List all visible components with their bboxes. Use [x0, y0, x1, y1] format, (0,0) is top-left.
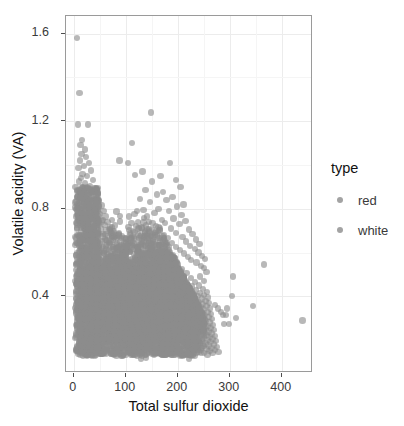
x-tick-label: 200	[152, 381, 202, 394]
data-point	[229, 293, 235, 299]
x-tick-label: 300	[204, 381, 254, 394]
data-point	[152, 252, 158, 258]
data-point	[143, 346, 149, 352]
data-point	[138, 224, 144, 230]
data-point	[138, 250, 144, 256]
data-point	[185, 312, 191, 318]
data-point	[128, 243, 134, 249]
data-point	[73, 288, 79, 294]
data-point	[136, 270, 142, 276]
data-point	[95, 344, 101, 350]
data-point	[224, 305, 230, 311]
gridline-horizontal-minor	[66, 165, 311, 166]
data-point	[299, 317, 305, 323]
data-point	[89, 295, 95, 301]
y-axis-title: Volatile acidity (VA)	[10, 15, 30, 372]
x-tick-mark	[73, 373, 74, 377]
data-point	[147, 265, 153, 271]
legend-dot-icon	[337, 227, 343, 233]
gridline-horizontal	[66, 34, 311, 35]
gridline-vertical-minor	[256, 16, 257, 371]
data-point	[171, 328, 177, 334]
legend-item-red[interactable]: red	[331, 188, 403, 212]
x-tick-label: 0	[48, 381, 98, 394]
data-point	[116, 157, 122, 163]
data-point	[151, 210, 157, 216]
data-point	[144, 213, 150, 219]
data-point	[176, 221, 182, 227]
legend-key	[331, 191, 349, 209]
x-tick-label: 400	[256, 381, 306, 394]
legend-item-white[interactable]: white	[331, 218, 403, 242]
data-point	[261, 261, 267, 267]
data-point	[163, 255, 169, 261]
data-point	[131, 347, 137, 353]
data-point	[84, 173, 90, 179]
legend-items: redwhite	[331, 188, 403, 242]
data-point	[180, 201, 186, 207]
data-point	[233, 315, 239, 321]
legend: type redwhite	[331, 160, 403, 248]
data-point	[167, 160, 173, 166]
x-axis-title: Total sulfur dioxide	[0, 398, 377, 414]
data-point	[226, 321, 232, 327]
x-tick-label: 100	[100, 381, 150, 394]
data-point	[129, 140, 135, 146]
data-point	[129, 234, 135, 240]
data-point	[165, 331, 171, 337]
data-point	[103, 346, 109, 352]
data-point	[82, 316, 88, 322]
data-point	[94, 337, 100, 343]
y-tick-mark	[61, 208, 65, 209]
legend-key	[331, 221, 349, 239]
data-point	[106, 334, 112, 340]
data-point	[185, 339, 191, 345]
data-point	[152, 345, 158, 351]
data-point	[94, 320, 100, 326]
data-point	[159, 248, 165, 254]
data-point	[148, 109, 154, 115]
data-point	[76, 90, 82, 96]
data-point	[163, 282, 169, 288]
data-point	[159, 351, 165, 357]
x-tick-mark	[177, 373, 178, 377]
data-point	[142, 187, 148, 193]
data-point	[170, 215, 176, 221]
data-point	[113, 208, 119, 214]
data-point	[132, 172, 138, 178]
data-point	[85, 121, 91, 127]
data-point	[169, 194, 175, 200]
data-point	[94, 295, 100, 301]
data-point	[77, 236, 83, 242]
data-point	[75, 121, 81, 127]
data-point	[115, 345, 121, 351]
data-point	[190, 334, 196, 340]
data-point	[149, 178, 155, 184]
data-point	[175, 337, 181, 343]
data-point	[153, 294, 159, 300]
data-point	[84, 246, 90, 252]
y-tick-mark	[61, 120, 65, 121]
legend-dot-icon	[337, 197, 343, 203]
data-point	[154, 191, 160, 197]
data-point	[177, 184, 183, 190]
data-point	[202, 256, 208, 262]
data-point	[166, 208, 172, 214]
scatter-plot-figure: 0.40.81.21.6 0100200300400 Total sulfur …	[0, 0, 404, 426]
data-point	[215, 349, 221, 355]
data-point	[163, 312, 169, 318]
data-point	[89, 270, 95, 276]
data-point	[162, 323, 168, 329]
data-point	[78, 302, 84, 308]
data-point	[78, 288, 84, 294]
data-point	[201, 278, 207, 284]
gridline-vertical	[282, 16, 283, 371]
data-point	[74, 35, 80, 41]
data-point	[117, 330, 123, 336]
data-point	[182, 218, 188, 224]
data-point	[131, 211, 137, 217]
legend-label: red	[358, 193, 377, 208]
data-point	[169, 294, 175, 300]
gridline-horizontal-minor	[66, 77, 311, 78]
gridline-horizontal	[66, 121, 311, 122]
